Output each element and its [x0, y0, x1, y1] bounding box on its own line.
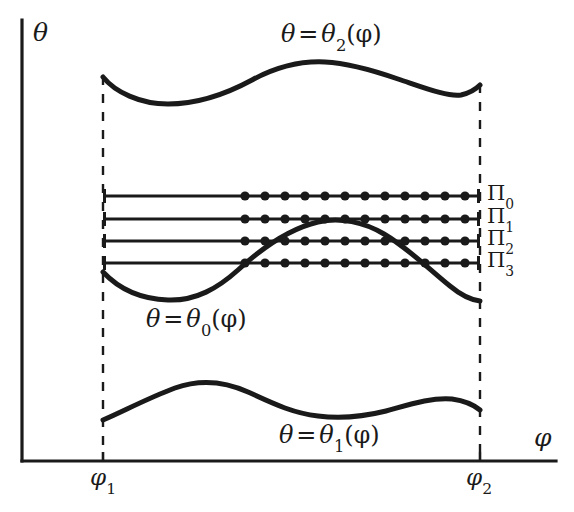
x-axis-label-text: φ: [534, 423, 552, 452]
x-tick-label-phi2-sub: 2: [482, 479, 492, 498]
plane-dot: [460, 236, 469, 245]
plane-dot: [320, 214, 329, 223]
curve-theta2: [103, 62, 480, 104]
plane-dot: [320, 258, 329, 267]
plane-dot: [240, 191, 249, 200]
plane-dot: [420, 214, 429, 223]
plane-dot: [300, 191, 309, 200]
plane-dot: [340, 236, 349, 245]
x-tick-label-phi1-base: φ: [90, 464, 106, 490]
curve-label-theta2-sub: 2: [336, 36, 346, 55]
plane-label-pi3-base: Π: [487, 248, 505, 272]
x-tick-label-phi1-sub: 1: [106, 479, 116, 498]
curve-label-theta0-eq: =: [160, 305, 186, 333]
curve-label-theta2-lhs: θ: [281, 20, 295, 48]
plane-dots-group: [240, 191, 469, 267]
y-axis-label-text: θ: [33, 18, 48, 47]
plane-dot: [460, 191, 469, 200]
plane-dot: [360, 258, 369, 267]
plane-dot: [440, 214, 449, 223]
plane-dot: [400, 191, 409, 200]
curve-theta1: [103, 383, 480, 420]
plane-dot: [460, 258, 469, 267]
curve-label-theta2-fn: θ: [321, 20, 335, 48]
figure-canvas: θ φ φ1 φ2 θ=θ2(φ) θ=θ0(φ) θ=θ1(φ) Π0 Π1 …: [0, 0, 574, 512]
plane-dot: [440, 236, 449, 245]
plane-dot: [320, 191, 329, 200]
plane-dot: [340, 214, 349, 223]
plane-dot: [280, 236, 289, 245]
plane-dot: [340, 258, 349, 267]
plane-dot: [360, 191, 369, 200]
plane-label-pi3-sub: 3: [505, 263, 514, 279]
y-axis-label: θ: [33, 20, 48, 45]
plane-dot: [420, 258, 429, 267]
plane-dot: [400, 214, 409, 223]
plane-dot: [380, 258, 389, 267]
plane-dot: [300, 214, 309, 223]
curve-label-theta1-lhs: θ: [279, 421, 293, 449]
x-tick-label-phi2-base: φ: [466, 464, 482, 490]
plane-dot: [340, 191, 349, 200]
curve-label-theta2-eq: =: [295, 20, 321, 48]
curve-label-theta0-arg: (φ): [211, 305, 247, 333]
plane-dot: [420, 236, 429, 245]
plane-label-pi0-base: Π: [487, 181, 505, 205]
plane-dot: [300, 236, 309, 245]
plane-dot: [260, 258, 269, 267]
plane-label-pi1-base: Π: [487, 204, 505, 228]
plane-dot: [240, 258, 249, 267]
plane-dot: [300, 258, 309, 267]
x-tick-label-phi1: φ1: [90, 466, 116, 493]
plane-dot: [320, 236, 329, 245]
curve-label-theta1-arg: (φ): [344, 421, 380, 449]
plane-label-pi2-base: Π: [487, 226, 505, 250]
curve-label-theta0-lhs: θ: [146, 305, 160, 333]
plane-dot: [260, 214, 269, 223]
curve-label-theta1-eq: =: [293, 421, 319, 449]
plane-dot: [240, 214, 249, 223]
curve-label-theta1: θ=θ1(φ): [279, 423, 380, 452]
x-axis-label: φ: [534, 425, 552, 450]
plane-dot: [400, 258, 409, 267]
plane-dot: [240, 236, 249, 245]
plane-dot: [260, 236, 269, 245]
plane-dot: [460, 214, 469, 223]
curve-label-theta0-fn: θ: [186, 305, 200, 333]
curve-label-theta1-fn: θ: [319, 421, 333, 449]
plane-dot: [360, 236, 369, 245]
plane-dot: [380, 191, 389, 200]
plane-dot: [280, 191, 289, 200]
plane-dot: [400, 236, 409, 245]
curve-label-theta2: θ=θ2(φ): [281, 22, 382, 51]
plane-dot: [380, 236, 389, 245]
curve-label-theta0: θ=θ0(φ): [146, 307, 247, 336]
plane-dot: [260, 191, 269, 200]
curve-label-theta1-sub: 1: [334, 437, 344, 456]
x-tick-label-phi2: φ2: [466, 466, 492, 493]
plane-dot: [280, 214, 289, 223]
plane-dot: [380, 214, 389, 223]
curve-label-theta2-arg: (φ): [346, 20, 382, 48]
plane-dot: [360, 214, 369, 223]
plane-dot: [440, 258, 449, 267]
plane-dot: [420, 191, 429, 200]
plane-dot: [280, 258, 289, 267]
plane-dot: [440, 191, 449, 200]
plane-label-pi3: Π3: [487, 250, 514, 275]
curve-label-theta0-sub: 0: [201, 321, 211, 340]
